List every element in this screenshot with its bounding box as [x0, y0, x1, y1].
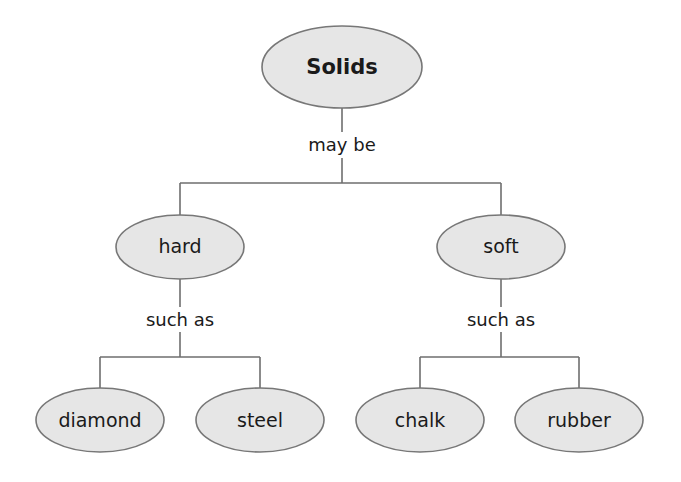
- node-soft: soft: [483, 235, 518, 257]
- node-chalk: chalk: [395, 409, 445, 431]
- node-solids: Solids: [306, 55, 377, 79]
- link-label-may-be: may be: [305, 134, 378, 156]
- node-diamond: diamond: [58, 409, 141, 431]
- node-hard: hard: [158, 235, 201, 257]
- node-steel: steel: [237, 409, 283, 431]
- node-rubber: rubber: [547, 409, 610, 431]
- link-label-such-as-hard: such as: [143, 309, 217, 331]
- link-label-such-as-soft: such as: [464, 309, 538, 331]
